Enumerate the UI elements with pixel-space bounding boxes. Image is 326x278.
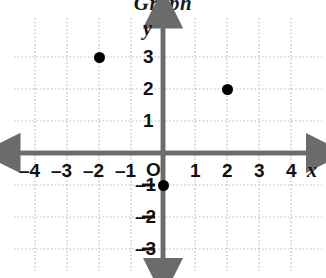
y-tick-label-2: 2 <box>143 79 154 98</box>
y-tick-label-1: 1 <box>143 111 154 130</box>
x-tick-label-2: 2 <box>222 161 233 180</box>
x-tick-label-3: 3 <box>254 161 265 180</box>
plot-area: –4 –3 –2 –1 1 2 3 4 O 3 2 1 –1 –2 –3 x y <box>0 0 326 278</box>
x-tick-label-neg2: –2 <box>83 161 104 180</box>
y-axis-label: y <box>143 18 152 38</box>
y-tick-label-3: 3 <box>143 47 154 66</box>
graph-canvas <box>0 0 326 278</box>
y-tick-label-neg1: –1 <box>135 175 156 194</box>
x-axis-label: x <box>307 160 317 180</box>
data-point <box>158 180 169 191</box>
coordinate-graph-figure: Graph <box>0 0 326 278</box>
y-tick-label-neg2: –2 <box>135 207 156 226</box>
data-point <box>222 84 233 95</box>
x-tick-label-1: 1 <box>190 161 201 180</box>
y-tick-label-neg3: –3 <box>135 239 156 258</box>
x-tick-label-neg3: –3 <box>51 161 72 180</box>
x-tick-label-4: 4 <box>286 161 297 180</box>
data-point <box>94 52 105 63</box>
x-tick-label-neg1: –1 <box>115 161 136 180</box>
x-tick-label-neg4: –4 <box>19 161 40 180</box>
